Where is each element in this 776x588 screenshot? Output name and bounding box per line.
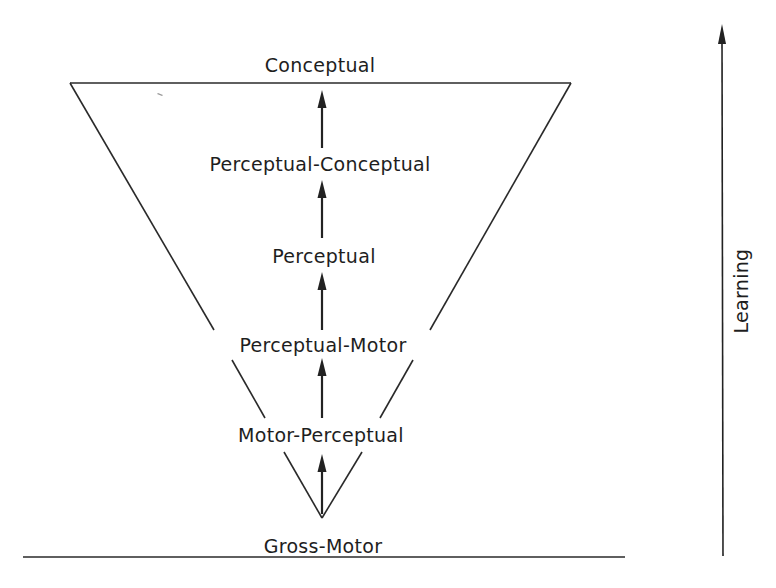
stage-label-motor-perceptual: Motor-Perceptual: [238, 424, 404, 446]
arrow-up-icon: [318, 454, 327, 514]
learning-axis: Learning: [718, 24, 752, 556]
arrow-up-icon: [318, 358, 327, 418]
arrow-up-icon: [318, 272, 327, 330]
stage-label-gross-motor: Gross-Motor: [264, 535, 383, 557]
triangle-left-side: [70, 83, 322, 518]
arrow-up-icon: [318, 180, 327, 238]
learning-axis-label: Learning: [730, 249, 752, 334]
stage-label-conceptual: Conceptual: [265, 54, 376, 76]
stage-label-perceptual-motor: Perceptual-Motor: [239, 334, 406, 356]
scan-speck: [157, 93, 163, 96]
arrow-up-icon: [718, 24, 726, 44]
arrow-up-icon: [318, 90, 327, 148]
learning-axis-line: [722, 38, 723, 556]
triangle-right-side: [322, 83, 571, 518]
stage-label-perceptual: Perceptual: [272, 245, 375, 267]
learning-hierarchy-diagram: Conceptual Perceptual-Conceptual Percept…: [0, 0, 776, 588]
stage-label-perceptual-conceptual: Perceptual-Conceptual: [209, 153, 430, 175]
